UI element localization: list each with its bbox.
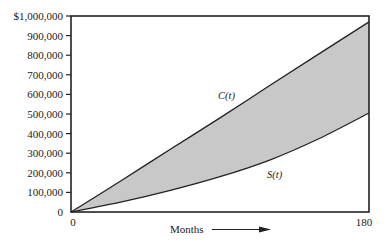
y-tick-label: 0 [58, 206, 64, 218]
y-tick-label: 900,000 [27, 30, 63, 42]
y-tick-label: 200,000 [27, 167, 63, 179]
x-axis-label: Months [170, 223, 204, 235]
y-tick-label: 700,000 [27, 69, 63, 81]
x-tick-label: 0 [70, 216, 76, 228]
series-label-s: S(t) [267, 169, 283, 181]
x-axis: 0180 [70, 216, 373, 228]
arrow-right-icon [212, 227, 271, 233]
y-tick-label: 400,000 [27, 128, 63, 140]
y-tick-label: 800,000 [27, 49, 63, 61]
y-tick-label: 100,000 [27, 186, 63, 198]
y-tick-label: 500,000 [27, 108, 63, 120]
y-tick-label: $1,000,000 [14, 10, 64, 22]
y-tick-label: 600,000 [27, 88, 63, 100]
series-label-c: C(t) [218, 90, 235, 102]
x-tick-label: 180 [356, 216, 373, 228]
chart: 0100,000200,000300,000400,000500,000600,… [0, 0, 390, 245]
y-tick-label: 300,000 [27, 147, 63, 159]
y-axis: 0100,000200,000300,000400,000500,000600,… [14, 10, 72, 218]
